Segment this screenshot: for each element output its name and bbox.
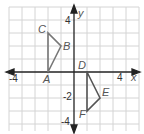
y-axis-label: y <box>77 7 85 19</box>
x-tick-4: 4 <box>117 72 123 83</box>
vertex-a-label: A <box>42 73 50 85</box>
triangle-def <box>87 72 100 111</box>
vertex-c-label: C <box>38 23 46 35</box>
coordinate-plane: y x 4 -4 4 -2 -4 A B C D E F <box>0 0 144 134</box>
triangle-abc <box>48 33 61 72</box>
x-axis-label: x <box>130 71 137 83</box>
y-axis <box>71 5 77 133</box>
y-axis-down-arrow-icon <box>71 125 77 133</box>
y-tick-neg4: -4 <box>61 116 70 127</box>
y-tick-4: 4 <box>65 15 71 26</box>
vertex-e-label: E <box>102 86 110 98</box>
y-axis-up-arrow-icon <box>71 5 77 13</box>
vertex-b-label: B <box>63 40 70 52</box>
y-tick-neg2: -2 <box>63 91 72 102</box>
x-tick-neg4: -4 <box>9 73 18 84</box>
vertex-d-label: D <box>78 59 86 71</box>
vertex-f-label: F <box>79 108 87 120</box>
